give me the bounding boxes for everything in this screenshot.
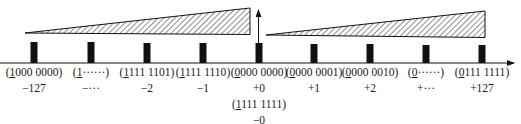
binary-code-label: (0000 0001) xyxy=(286,66,343,79)
value-marker-bar xyxy=(311,44,318,63)
binary-code-label-alt: (1111 1111) xyxy=(232,98,286,111)
value-marker-bar xyxy=(200,43,207,63)
binary-code-label: (1111 1110) xyxy=(176,66,230,79)
binary-code-label: (1000 0000) xyxy=(6,66,63,79)
decimal-value-label: +0 xyxy=(253,82,265,95)
decimal-value-label: −127 xyxy=(22,82,46,95)
value-marker-bar xyxy=(367,44,374,63)
binary-code-label: (0111 1111) xyxy=(455,66,509,79)
binary-code-label: (1······) xyxy=(73,66,109,79)
decimal-value-label-alt: −0 xyxy=(253,114,265,124)
decimal-value-label: −··· xyxy=(82,82,100,95)
value-marker-bar xyxy=(88,42,95,63)
value-marker-bar xyxy=(144,43,151,63)
binary-code-label: (0······) xyxy=(408,66,444,79)
decimal-value-label: −1 xyxy=(197,82,209,95)
value-marker-bar xyxy=(256,43,263,63)
binary-code-label: (0000 0010) xyxy=(342,66,399,79)
binary-code-label: (0000 0000) xyxy=(231,66,288,79)
decimal-value-label: +··· xyxy=(417,82,435,95)
decimal-value-label: +1 xyxy=(308,82,320,95)
value-marker-bar xyxy=(479,45,486,63)
number-line-diagram: (1000 0000)−127(1······)−···(1111 1101)−… xyxy=(0,0,521,124)
decimal-value-label: −2 xyxy=(141,82,153,95)
value-marker-bar xyxy=(423,45,430,63)
value-marker-bar xyxy=(31,42,38,63)
decimal-value-label: +2 xyxy=(364,82,376,95)
decimal-value-label: +127 xyxy=(470,82,494,95)
binary-code-label: (1111 1101) xyxy=(120,66,175,79)
negative-magnitude-wedge xyxy=(25,8,250,35)
positive-magnitude-wedge xyxy=(266,11,485,38)
